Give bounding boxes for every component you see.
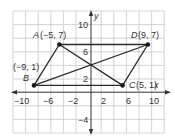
point-a (57, 42, 62, 47)
y-tick-label: −4 (78, 115, 88, 125)
y-axis-label: y (93, 11, 99, 21)
y-axis-arrow-down-icon (89, 129, 93, 135)
y-tick-label: 2 (83, 74, 88, 84)
point-d (146, 42, 151, 47)
label-d-name: D (131, 30, 138, 40)
coordinate-plane: A (−5, 7) (−9, 1) B C (5, 1) x D (9, 7) … (0, 0, 175, 139)
x-tick-label: 6 (126, 96, 131, 106)
x-tick-label: −2 (68, 96, 78, 106)
label-b-coords: (−9, 1) (13, 62, 39, 72)
label-d-coords: (9, 7) (138, 30, 159, 40)
x-axis-label: x (153, 80, 159, 90)
label-c-name: C (129, 80, 136, 90)
y-tick-label: 6 (83, 47, 88, 57)
label-a-name: A (32, 30, 39, 40)
y-tick-label: 10 (78, 20, 88, 30)
x-tick-label: 2 (101, 96, 106, 106)
point-c (120, 83, 125, 88)
point-b (32, 83, 37, 88)
x-tick-label: 10 (149, 96, 159, 106)
x-tick-label: −10 (14, 96, 29, 106)
label-b-name: B (23, 73, 29, 83)
label-a-coords: (−5, 7) (40, 30, 66, 40)
x-tick-label: −6 (43, 96, 53, 106)
x-axis-arrow-left-icon (11, 90, 17, 94)
x-axis-arrow-right-icon (165, 90, 171, 94)
